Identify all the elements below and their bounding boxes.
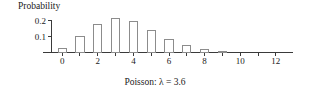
x-tick-label: 2 — [96, 56, 101, 64]
x-tick-label: 0 — [60, 56, 65, 64]
y-tick-label: 0.1 — [35, 32, 46, 42]
x-tick-label: 4 — [131, 56, 136, 64]
bar-x-7 — [183, 46, 191, 53]
x-tick-label: 12 — [271, 56, 280, 64]
bar-x-1 — [76, 37, 84, 53]
y-tick-label: 0.2 — [35, 16, 46, 26]
chart-caption: Poisson: λ = 3.6 — [0, 76, 310, 88]
bar-x-4 — [129, 22, 137, 53]
bar-x-0 — [58, 48, 66, 52]
chart-plot-area: 0.10.2024681012x — [0, 12, 310, 64]
bar-x-8 — [201, 49, 209, 52]
x-tick-label: 8 — [202, 56, 207, 64]
x-tick-label: 6 — [167, 56, 172, 64]
bar-x-3 — [112, 18, 120, 52]
poisson-distribution-figure: Probability 0.10.2024681012x Poisson: λ … — [0, 0, 310, 96]
x-tick-label: 10 — [236, 56, 246, 64]
bar-x-6 — [165, 39, 173, 52]
bar-x-9 — [218, 51, 226, 52]
bar-x-2 — [94, 24, 102, 52]
bar-x-5 — [147, 30, 155, 52]
y-axis-label: Probability — [18, 1, 60, 12]
